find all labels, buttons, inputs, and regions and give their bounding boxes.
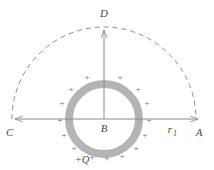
label-point-A: A (195, 126, 203, 138)
plus-sign: + (144, 98, 149, 108)
charged-ring-figure: + + + + + + + + + + + + + + + D C A B r … (0, 0, 214, 170)
plus-sign: + (57, 115, 62, 125)
label-radius-r1: r 1 (168, 123, 177, 138)
plus-sign: + (119, 151, 124, 161)
plus-sign: + (117, 72, 122, 82)
plus-sign: + (142, 130, 147, 140)
plus-sign: + (133, 143, 138, 153)
label-point-B: B (101, 122, 108, 134)
plus-sign: + (104, 153, 109, 163)
plus-sign: + (89, 152, 94, 162)
plus-sign: + (84, 72, 89, 82)
label-point-D: D (99, 7, 108, 19)
plus-sign: + (68, 84, 73, 94)
plus-sign: + (146, 115, 151, 125)
plus-sign: + (135, 84, 140, 94)
label-radius-subscript: 1 (173, 129, 177, 138)
plus-sign: + (71, 143, 76, 153)
label-radius-main: r (168, 123, 173, 135)
plus-sign: + (61, 130, 66, 140)
label-point-C: C (6, 126, 14, 138)
label-charge-Q: +Q (75, 154, 90, 165)
figure-canvas: + + + + + + + + + + + + + + + D C A B r … (0, 0, 214, 170)
plus-sign: + (59, 98, 64, 108)
